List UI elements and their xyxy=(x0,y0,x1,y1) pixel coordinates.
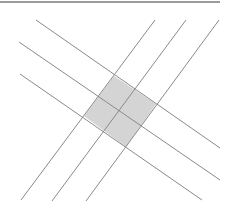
nw-se-line-2 xyxy=(19,42,220,180)
crossing-lines-diagram xyxy=(0,0,232,212)
